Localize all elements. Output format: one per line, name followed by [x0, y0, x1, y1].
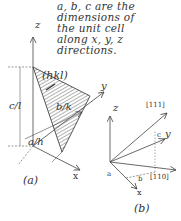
x-axis-label-a: x: [73, 171, 78, 181]
c-edge-label: c: [157, 131, 161, 139]
c-intercept-label: c/l: [9, 100, 21, 111]
a-edge-label-b: a: [107, 170, 111, 178]
y-axis-b: [110, 139, 165, 162]
caption-b: (b): [134, 202, 150, 215]
x-axis-label-b: x: [137, 188, 142, 197]
y-axis-label-b: y: [165, 128, 171, 139]
dir-111-label: [111]: [146, 101, 165, 109]
dir-110-label: [110]: [150, 173, 169, 181]
x-axis-b: [110, 162, 137, 189]
crystal-diagram: [0, 0, 181, 221]
hkl-label: (hkl): [42, 69, 68, 82]
caption-a: (a): [23, 174, 38, 187]
a-intercept-label: a/h: [28, 136, 44, 147]
dir-110-vector: [110, 162, 176, 170]
y-axis-label-a: y: [101, 80, 107, 91]
z-axis-label-a: z: [35, 19, 40, 30]
x-axis-a: [33, 146, 80, 170]
b-intercept-label: b/k: [56, 101, 72, 112]
z-axis-label-b: z: [113, 102, 118, 113]
b-edge-label-b: b: [138, 175, 142, 183]
